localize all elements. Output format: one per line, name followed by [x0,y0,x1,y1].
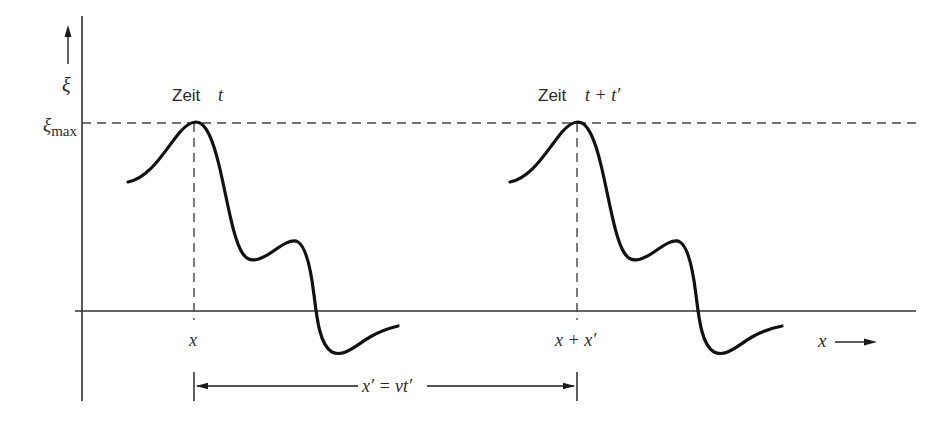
displacement-label: x′ = vt′ [361,376,413,396]
pulse-2-curve [510,122,782,354]
arrowhead-right-icon [563,383,575,389]
y-axis-label: ξ [62,74,71,96]
max-level-label-sub: max [51,123,77,139]
pulse-2-title-time: t + t′ [585,85,621,105]
displacement-dimension: x′ = vt′ [194,372,577,401]
pulse-1-curve [128,122,398,354]
arrow-up-icon [65,25,72,64]
arrow-right-icon [835,339,877,346]
max-level-label: ξmax [43,114,77,139]
pulse-1-title-time: t [218,85,224,105]
pulse-1-title-word: Zeit [172,86,201,105]
pulse-2-title-word: Zeit [538,86,567,105]
arrowhead-left-icon [196,383,208,389]
wave-pulse-diagram: ξ ξmax Zeit t Zeit t + t′ x x + x′ x x′ … [0,0,928,429]
x-axis-label: x [817,330,827,351]
pulse-2-position-label: x + x′ [554,330,597,350]
pulse-1-position-label: x [188,330,197,350]
